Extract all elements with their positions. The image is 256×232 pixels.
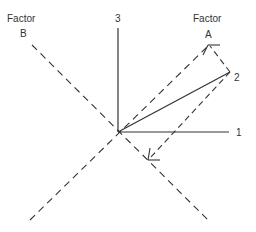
axis-1-label: 1 (236, 127, 242, 138)
arrowhead-factor-a-icon (203, 45, 220, 55)
factor-a-letter: A (205, 29, 212, 40)
axis-3-label: 3 (115, 13, 121, 24)
diagram-svg: Factor B Factor A 3 1 2 (0, 0, 256, 232)
factor-b-title: Factor (7, 13, 36, 24)
factor-b-axis (32, 45, 210, 222)
factor-rotation-diagram: Factor B Factor A 3 1 2 (0, 0, 256, 232)
projection-to-factor-a (210, 46, 230, 72)
factor-a-title: Factor (193, 13, 222, 24)
factor-b-letter: B (20, 28, 27, 39)
projection-to-factor-b (150, 72, 230, 158)
axis-2-label: 2 (234, 72, 240, 83)
vector-2-line (118, 72, 230, 132)
